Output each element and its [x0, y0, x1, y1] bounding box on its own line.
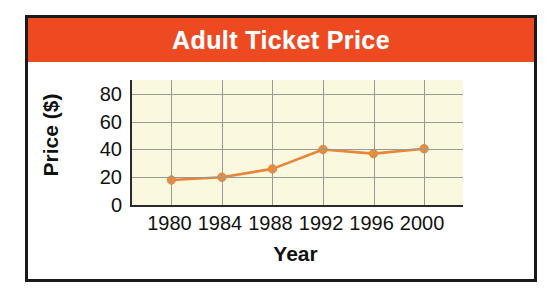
gridline-vertical: [374, 80, 375, 205]
x-tick-label: 1992: [299, 212, 344, 235]
x-axis-title: Year: [130, 242, 461, 266]
y-axis-title-label: Price ($): [39, 94, 63, 177]
chart-title-band: Adult Ticket Price: [28, 18, 534, 62]
y-tick-label: 40: [100, 139, 122, 159]
plot-grid: [132, 80, 463, 205]
figure-frame: Adult Ticket Price Price ($) 020406080 1…: [25, 15, 537, 282]
gridline-vertical: [171, 80, 172, 205]
y-tick-label: 20: [100, 167, 122, 187]
y-axis-title: Price ($): [38, 70, 64, 200]
gridline-horizontal: [132, 122, 463, 123]
x-tick-label: 2000: [400, 212, 445, 235]
gridline-vertical: [272, 80, 273, 205]
series-line: [171, 149, 424, 180]
x-tick-label: 1980: [147, 212, 192, 235]
y-tick-label: 60: [100, 112, 122, 132]
gridline-horizontal: [132, 149, 463, 150]
x-axis-tick-labels: 198019841988199219962000: [130, 212, 461, 238]
y-tick-label: 80: [100, 84, 122, 104]
line-series: [132, 80, 463, 205]
chart-title: Adult Ticket Price: [172, 26, 390, 55]
gridline-horizontal: [132, 177, 463, 178]
x-tick-label: 1996: [349, 212, 394, 235]
gridline-vertical: [323, 80, 324, 205]
gridline-horizontal: [132, 94, 463, 95]
plot-area: [130, 80, 463, 207]
gridline-vertical: [222, 80, 223, 205]
y-axis-tick-labels: 020406080: [68, 62, 126, 227]
y-tick-label: 0: [111, 195, 122, 215]
gridline-vertical: [424, 80, 425, 205]
chart-body: Price ($) 020406080 19801984198819921996…: [28, 62, 534, 279]
x-tick-label: 1984: [198, 212, 243, 235]
x-tick-label: 1988: [248, 212, 293, 235]
